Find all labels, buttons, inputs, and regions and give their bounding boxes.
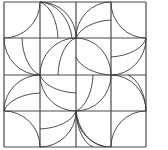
quilt-pattern-diagram <box>0 0 168 150</box>
